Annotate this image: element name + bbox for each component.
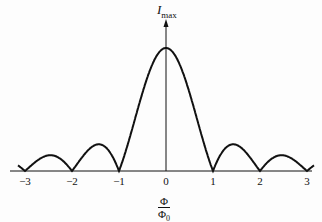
x-tick-label: 2 bbox=[257, 175, 263, 187]
y-axis-arrow-icon bbox=[164, 19, 169, 27]
x-tick-label: 0 bbox=[163, 175, 169, 187]
x-tick-label: −2 bbox=[66, 175, 78, 187]
x-tick-label: 1 bbox=[210, 175, 216, 187]
chart: Imax −3−2−10123 Φ Φ0 bbox=[0, 0, 322, 222]
y-axis-label: Imax bbox=[157, 2, 177, 20]
x-axis-label: Φ Φ0 bbox=[158, 195, 170, 222]
x-tick-label: −1 bbox=[113, 175, 125, 187]
x-tick-label: −3 bbox=[19, 175, 31, 187]
x-tick-label: 3 bbox=[304, 175, 310, 187]
plot-area bbox=[0, 0, 322, 222]
